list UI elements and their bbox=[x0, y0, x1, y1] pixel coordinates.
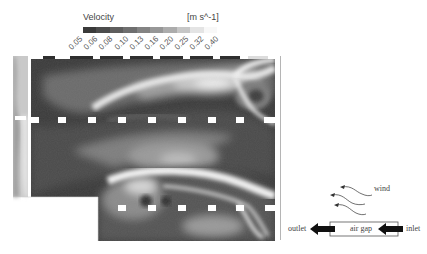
colorbar-segment bbox=[177, 27, 190, 33]
colorbar-tick: 0.13 bbox=[128, 34, 145, 51]
colorbar-tick: 0.06 bbox=[82, 34, 99, 51]
colorbar-segment bbox=[137, 27, 150, 33]
legend-unit: [m s^-1] bbox=[187, 12, 219, 22]
colorbar-segment bbox=[96, 27, 109, 33]
colorbar-tick: 0.25 bbox=[173, 34, 190, 51]
colorbar-segment bbox=[190, 27, 203, 33]
colorbar-segment bbox=[163, 27, 176, 33]
inlet-label: inlet bbox=[406, 224, 420, 233]
colorbar-segment bbox=[83, 27, 96, 33]
top-openings-row bbox=[31, 56, 275, 59]
colorbar-segment bbox=[150, 27, 163, 33]
contour-field bbox=[13, 56, 275, 241]
colorbar-segment bbox=[204, 27, 217, 33]
colorbar-tick: 0.10 bbox=[113, 34, 130, 51]
wind-label: wind bbox=[374, 184, 390, 193]
right-boundary-line bbox=[280, 56, 281, 240]
colorbar-tick: 0.16 bbox=[143, 34, 160, 51]
colorbar bbox=[83, 27, 217, 33]
colorbar-tick: 0.08 bbox=[97, 34, 114, 51]
colorbar-segment bbox=[123, 27, 136, 33]
left-strip bbox=[13, 56, 31, 197]
colorbar-tick: 0.05 bbox=[67, 34, 84, 51]
air-gap-label: air gap bbox=[350, 224, 372, 233]
colorbar-tick: 0.40 bbox=[203, 34, 220, 51]
velocity-contour-plot bbox=[13, 56, 275, 241]
legend-title: Velocity bbox=[83, 12, 114, 22]
colorbar-segment bbox=[110, 27, 123, 33]
outlet-label: outlet bbox=[288, 224, 306, 233]
contour-main bbox=[31, 56, 275, 241]
wind-arrows-icon bbox=[290, 180, 427, 250]
airflow-schematic: wind outlet air gap inlet bbox=[290, 180, 427, 250]
colorbar-tick: 0.32 bbox=[188, 34, 205, 51]
colorbar-tick: 0.20 bbox=[158, 34, 175, 51]
